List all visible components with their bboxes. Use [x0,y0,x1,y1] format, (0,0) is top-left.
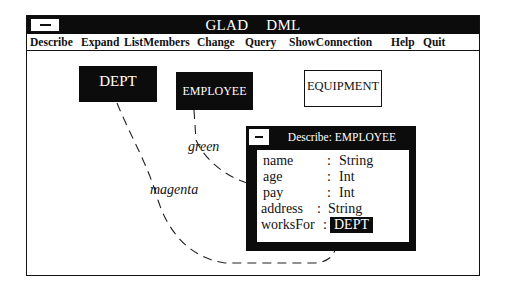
entity-employee[interactable]: EMPLOYEE [176,72,253,110]
connection-label-green: green [188,139,219,155]
entity-label: EQUIPMENT [307,79,379,94]
describe-dialog: Describe: EMPLOYEE name : String age : I… [246,126,416,251]
entity-equipment[interactable]: EQUIPMENT [304,70,382,107]
attribute-separator: : [327,169,331,185]
attribute-separator: : [317,201,321,217]
entity-label: DEPT [99,73,137,90]
attribute-list: name : String age : Int pay : Int addres… [257,150,409,242]
attribute-type: Int [339,185,355,201]
attribute-name: pay [263,185,283,201]
entity-dept[interactable]: DEPT [79,66,157,102]
attribute-name: name [263,153,293,169]
attribute-name: worksFor [261,217,315,233]
dialog-system-menu-button[interactable] [249,129,269,145]
attribute-separator: : [327,153,331,169]
attribute-type: String [339,153,373,169]
attribute-separator: : [327,185,331,201]
attribute-type: Int [339,169,355,185]
attribute-separator: : [323,217,327,233]
minus-icon [255,136,263,138]
dialog-title: Describe: EMPLOYEE [272,126,412,148]
connection-label-magenta: magenta [150,182,198,198]
reference-type-dept[interactable]: DEPT [330,217,373,233]
attribute-name: address [261,201,303,217]
attribute-name: age [263,169,282,185]
entity-label: EMPLOYEE [183,84,247,99]
attribute-type: String [328,201,362,217]
